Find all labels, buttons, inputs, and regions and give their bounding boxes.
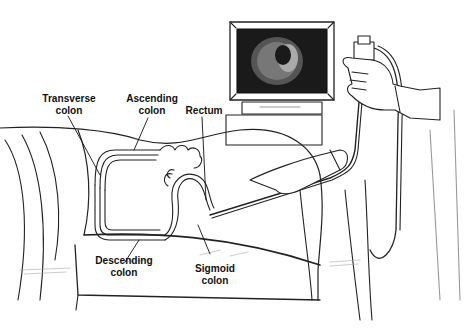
label-transverse-colon: Transverse colon bbox=[40, 92, 97, 116]
label-descending-line1: Descending bbox=[91, 254, 157, 266]
colon-anatomy bbox=[95, 146, 214, 241]
label-ascending-line2: colon bbox=[124, 104, 179, 116]
label-sigmoid-colon: Sigmoid colon bbox=[192, 262, 238, 286]
label-ascending-colon: Ascending colon bbox=[124, 92, 179, 116]
label-rectum-line1: Rectum bbox=[182, 104, 226, 116]
label-transverse-line2: colon bbox=[40, 104, 97, 116]
label-sigmoid-line1: Sigmoid bbox=[192, 262, 238, 274]
physician-hand-lower bbox=[250, 150, 348, 194]
label-descending-colon: Descending colon bbox=[91, 254, 157, 278]
video-monitor bbox=[226, 22, 334, 145]
label-ascending-line1: Ascending bbox=[124, 92, 179, 104]
label-descending-line2: colon bbox=[91, 266, 157, 278]
label-transverse-line1: Transverse bbox=[40, 92, 97, 104]
label-sigmoid-line2: colon bbox=[192, 274, 238, 286]
label-rectum: Rectum bbox=[182, 104, 226, 116]
